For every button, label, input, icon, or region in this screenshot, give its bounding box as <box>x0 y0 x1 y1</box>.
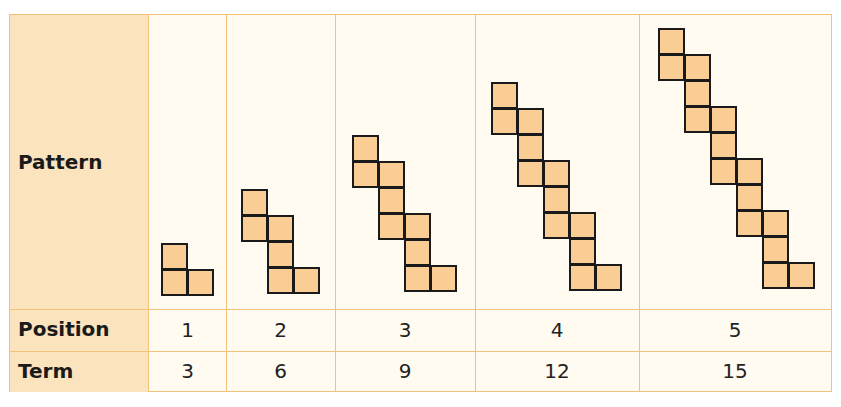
position-label: Position <box>18 317 110 341</box>
pattern-square <box>710 132 737 159</box>
pattern-square <box>378 187 405 214</box>
position-5: 5 <box>639 310 831 351</box>
row-header-term: Term <box>10 351 149 392</box>
position-2: 2 <box>226 310 335 351</box>
pattern-label: Pattern <box>18 150 102 174</box>
term-3: 9 <box>335 351 475 392</box>
pattern-square <box>491 82 518 109</box>
row-header-pattern: Pattern <box>10 15 149 309</box>
pattern-square <box>378 161 405 188</box>
pattern-square <box>517 160 544 187</box>
pattern-square <box>543 186 570 213</box>
pattern-square <box>569 212 596 239</box>
pattern-square <box>762 236 789 263</box>
pattern-square <box>736 210 763 237</box>
pattern-square <box>378 213 405 240</box>
pattern-table: Pattern Position Term 1 2 3 4 5 3 6 9 12… <box>9 14 832 392</box>
pattern-square <box>267 241 294 268</box>
pattern-square <box>161 243 188 270</box>
pattern-square <box>658 28 685 55</box>
term-2: 6 <box>226 351 335 392</box>
pattern-square <box>710 158 737 185</box>
pattern-square <box>569 264 596 291</box>
pattern-square <box>404 213 431 240</box>
pattern-square <box>187 269 214 296</box>
position-4: 4 <box>475 310 639 351</box>
pattern-square <box>267 267 294 294</box>
pattern-square <box>543 160 570 187</box>
pattern-square <box>404 239 431 266</box>
term-1: 3 <box>149 351 226 392</box>
row-header-position: Position <box>10 309 149 351</box>
pattern-square <box>684 80 711 107</box>
term-5: 15 <box>639 351 831 392</box>
pattern-square <box>684 106 711 133</box>
pattern-square <box>684 54 711 81</box>
pattern-square <box>658 54 685 81</box>
pattern-square <box>430 265 457 292</box>
pattern-square <box>543 212 570 239</box>
pattern-square <box>161 269 188 296</box>
pattern-square <box>517 108 544 135</box>
pattern-square <box>736 184 763 211</box>
pattern-square <box>352 135 379 162</box>
pattern-square <box>762 210 789 237</box>
pattern-square <box>491 108 518 135</box>
pattern-square <box>404 265 431 292</box>
position-1: 1 <box>149 310 226 351</box>
position-3: 3 <box>335 310 475 351</box>
pattern-square <box>517 134 544 161</box>
pattern-square <box>762 262 789 289</box>
pattern-square <box>241 215 268 242</box>
pattern-square <box>267 215 294 242</box>
pattern-square <box>293 267 320 294</box>
term-label: Term <box>18 359 73 383</box>
pattern-square <box>788 262 815 289</box>
pattern-square <box>241 189 268 216</box>
pattern-square <box>352 161 379 188</box>
pattern-square <box>736 158 763 185</box>
pattern-square <box>710 106 737 133</box>
term-4: 12 <box>475 351 639 392</box>
pattern-square <box>595 264 622 291</box>
pattern-square <box>569 238 596 265</box>
